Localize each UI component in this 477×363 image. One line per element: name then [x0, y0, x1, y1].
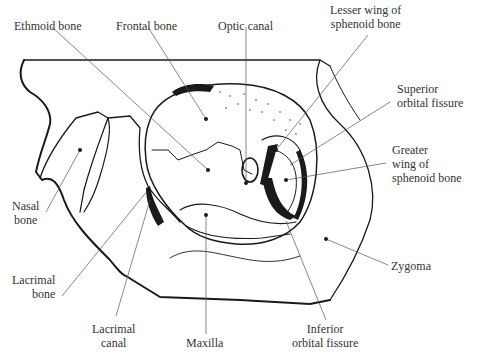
label-greater-wing-sphenoid: Greater wing of sphenoid bone: [392, 143, 462, 185]
label-lacrimal-canal: Lacrimal canal: [92, 322, 135, 350]
label-inferior-orbital-fissure: Inferior orbital fissure: [292, 322, 358, 350]
label-nasal-bone: Nasal bone: [12, 199, 39, 227]
label-optic-canal: Optic canal: [218, 19, 273, 33]
label-line: Nasal: [12, 199, 39, 213]
label-line: Lacrimal: [12, 273, 55, 287]
label-line: Inferior: [292, 322, 358, 336]
label-line: Lacrimal: [92, 322, 135, 336]
label-line: Greater: [392, 143, 462, 157]
label-frontal-bone: Frontal bone: [116, 19, 177, 33]
label-lacrimal-bone: Lacrimal bone: [12, 273, 55, 301]
orbit-diagram: Ethmoid bone Frontal bone Optic canal Le…: [0, 0, 477, 363]
label-line: sphenoid bone: [392, 171, 462, 185]
label-line: sphenoid bone: [330, 17, 401, 31]
label-maxilla: Maxilla: [186, 336, 223, 350]
label-line: orbital fissure: [292, 336, 358, 350]
label-superior-orbital-fissure: Superior orbital fissure: [397, 82, 463, 110]
label-line: Superior: [397, 82, 463, 96]
label-line: orbital fissure: [397, 96, 463, 110]
label-zygoma: Zygoma: [391, 259, 431, 273]
label-line: wing of: [392, 157, 462, 171]
label-line: bone: [12, 213, 39, 227]
label-line: Lesser wing of: [330, 3, 401, 17]
label-ethmoid-bone: Ethmoid bone: [14, 19, 82, 33]
label-line: canal: [92, 336, 135, 350]
label-lesser-wing-sphenoid: Lesser wing of sphenoid bone: [330, 3, 401, 31]
label-line: bone: [12, 287, 55, 301]
